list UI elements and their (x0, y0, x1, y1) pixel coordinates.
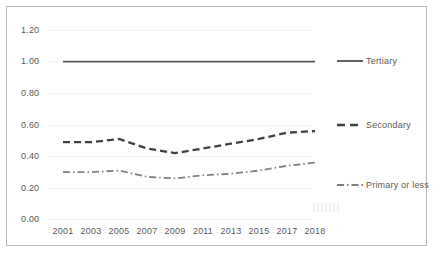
series-line-secondary (63, 131, 315, 153)
faint-watermark-mark (313, 203, 339, 212)
legend-item-tertiary: Tertiary (337, 56, 397, 66)
legend-label-primary-or-less: Primary or less (366, 180, 429, 190)
legend-item-secondary: Secondary (337, 120, 411, 130)
series-line-primary-or-less (63, 163, 315, 179)
legend-swatch-secondary-icon (337, 120, 363, 130)
chart-frame: 1.20 1.00 0.80 0.60 0.40 0.20 0.00 2001 … (6, 6, 427, 246)
legend-label-secondary: Secondary (366, 120, 411, 130)
legend-item-primary-or-less: Primary or less (337, 180, 429, 190)
legend-swatch-primary-or-less-icon (337, 180, 363, 190)
chart-canvas: 1.20 1.00 0.80 0.60 0.40 0.20 0.00 2001 … (7, 7, 426, 245)
legend-swatch-tertiary-icon (337, 56, 363, 66)
legend-label-tertiary: Tertiary (366, 56, 397, 66)
